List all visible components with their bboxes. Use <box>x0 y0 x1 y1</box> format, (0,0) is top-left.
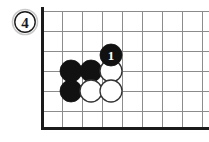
stone-black[interactable] <box>80 60 102 82</box>
stone-white[interactable] <box>80 80 102 102</box>
figure-number-text: 4 <box>21 15 29 31</box>
stone-black-1[interactable]: 1 <box>100 44 122 66</box>
black-stone <box>60 80 82 102</box>
go-board: 1 4 <box>0 0 209 142</box>
go-diagram: 1 4 <box>0 0 209 142</box>
white-stone <box>100 80 122 102</box>
stone-white[interactable] <box>100 80 122 102</box>
black-stone <box>100 44 122 66</box>
stone-black[interactable] <box>60 60 82 82</box>
black-stone <box>80 60 102 82</box>
white-stone <box>80 80 102 102</box>
figure-number-label: 4 <box>13 10 38 35</box>
stone-black[interactable] <box>60 80 82 102</box>
black-stone <box>60 60 82 82</box>
